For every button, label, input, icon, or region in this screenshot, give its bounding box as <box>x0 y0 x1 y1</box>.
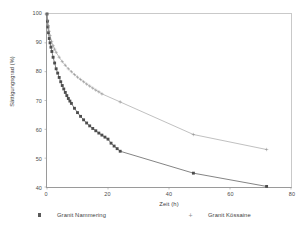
data-point-marker <box>58 56 61 59</box>
data-point-marker <box>67 97 70 100</box>
data-point-marker <box>73 107 76 110</box>
data-point-marker <box>97 90 100 93</box>
data-point-marker <box>76 111 79 114</box>
data-point-marker <box>94 88 97 91</box>
data-point-marker <box>107 138 110 141</box>
x-axis-tick-label: 60 <box>219 191 243 198</box>
data-point-marker <box>116 147 119 150</box>
series-line <box>47 14 267 186</box>
data-point-marker <box>97 132 100 135</box>
data-point-marker <box>64 91 67 94</box>
y-axis-tick-label: 70 <box>20 98 42 104</box>
chart-plot-svg <box>47 14 291 187</box>
data-point-marker <box>82 118 85 121</box>
y-axis-tick-label: 100 <box>20 10 42 16</box>
data-point-marker <box>56 72 59 75</box>
legend-item-label: Granit Nammering <box>57 211 106 219</box>
data-point-marker <box>54 51 57 54</box>
filled-square-marker-icon <box>34 211 45 220</box>
data-point-marker <box>50 50 53 53</box>
plus-marker-icon: + <box>185 211 196 220</box>
data-point-marker <box>192 172 195 175</box>
data-point-marker <box>91 127 94 130</box>
data-point-marker <box>113 145 116 148</box>
series-line <box>47 14 267 150</box>
x-axis-tick-label: 0 <box>34 191 58 198</box>
legend-item-granit-nammering[interactable]: Granit Nammering <box>34 209 106 221</box>
data-point-marker <box>62 88 65 91</box>
legend-item-granit-koessaine[interactable]: + Granit Kössaine <box>185 209 251 221</box>
data-point-marker <box>50 46 53 49</box>
data-point-marker <box>59 80 62 83</box>
x-axis-tick-label: 20 <box>96 191 120 198</box>
data-point-marker <box>88 124 91 127</box>
data-point-marker <box>100 92 103 95</box>
x-axis-title: Zeit (h) <box>46 200 292 208</box>
data-point-marker <box>104 136 107 139</box>
y-axis-tick-label: 90 <box>20 39 42 45</box>
legend-item-label: Granit Kössaine <box>208 211 251 219</box>
plot-area <box>46 13 292 188</box>
data-point-marker <box>265 148 268 151</box>
data-point-marker <box>70 102 73 105</box>
x-axis-tick-label: 80 <box>280 191 304 198</box>
y-axis-tick-labels: 100908070605040 <box>18 13 42 188</box>
data-point-marker <box>53 47 56 50</box>
chart-figure: Sättigungsgrad (%) 100908070605040 02040… <box>0 0 307 229</box>
data-point-marker <box>49 41 52 44</box>
data-point-marker <box>88 84 91 87</box>
y-axis-tick-label: 80 <box>20 68 42 74</box>
chart-legend: Granit Nammering + Granit Kössaine <box>30 209 280 223</box>
data-point-marker <box>85 122 88 125</box>
y-axis-tick-label: 60 <box>20 127 42 133</box>
data-point-marker <box>265 185 268 188</box>
data-point-marker <box>91 86 94 89</box>
x-axis-tick-labels: 020406080 <box>46 191 292 200</box>
data-point-marker <box>94 129 97 132</box>
y-axis-title: Sättigungsgrad (%) <box>9 44 16 120</box>
y-axis-tick-label: 50 <box>20 156 42 162</box>
data-point-marker <box>119 100 122 103</box>
data-point-marker <box>61 84 64 87</box>
data-point-marker <box>52 56 55 59</box>
data-point-marker <box>53 62 56 65</box>
data-point-marker <box>110 142 113 145</box>
data-point-marker <box>119 150 122 153</box>
data-point-marker <box>46 26 49 29</box>
data-point-marker <box>192 133 195 136</box>
data-point-marker <box>100 134 103 137</box>
data-point-marker <box>55 67 58 70</box>
data-point-marker <box>58 76 61 79</box>
data-point-marker <box>79 115 82 118</box>
x-axis-tick-label: 40 <box>157 191 181 198</box>
data-point-marker <box>65 94 68 97</box>
